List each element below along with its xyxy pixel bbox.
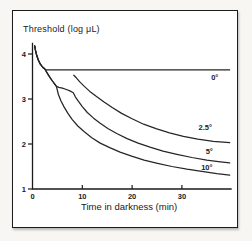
x-axis-label: Time in darkness (min) — [81, 201, 177, 212]
x-tick-label: 0 — [30, 192, 34, 201]
curve-label: 2.5° — [199, 123, 212, 132]
curve-0deg — [35, 46, 230, 70]
page: { "figure": { "y_axis_title": "Threshold… — [0, 0, 252, 241]
curve-10deg — [35, 46, 230, 175]
y-tick-label: 4 — [22, 50, 27, 59]
y-tick-label: 3 — [22, 95, 26, 104]
figure-panel: Threshold (log μL) 123401020300°2.5°5°10… — [12, 10, 238, 228]
chart-canvas: 123401020300°2.5°5°10° — [13, 11, 237, 227]
x-tick-label: 30 — [178, 192, 186, 201]
x-tick-label: 20 — [128, 192, 136, 201]
curve-label: 10° — [201, 163, 212, 172]
curve-label: 5° — [206, 147, 213, 156]
curve-2.5deg — [74, 75, 230, 143]
y-tick-label: 2 — [22, 140, 26, 149]
curve-label: 0° — [211, 73, 218, 82]
y-tick-label: 1 — [22, 185, 26, 194]
curve-5deg — [35, 46, 230, 163]
x-tick-label: 10 — [78, 192, 86, 201]
